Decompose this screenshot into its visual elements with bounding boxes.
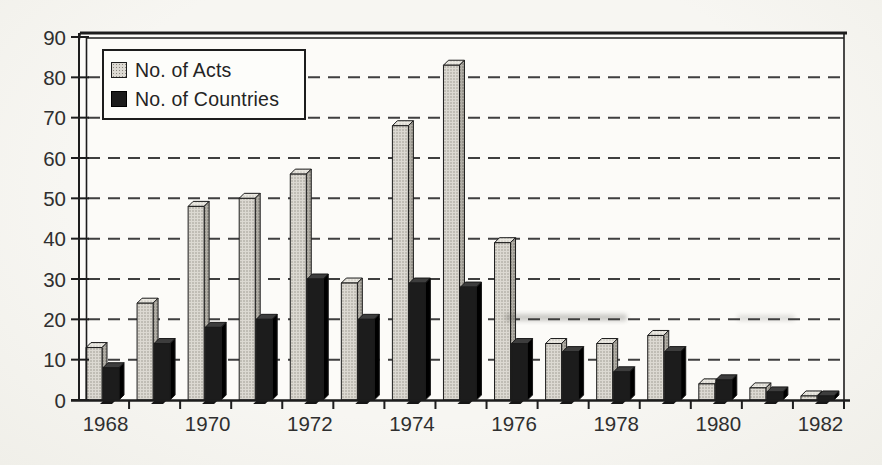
bar-acts-1979-front bbox=[648, 335, 664, 400]
bar-countries-1973-front bbox=[358, 319, 374, 400]
bar-countries-1968-front bbox=[103, 368, 119, 400]
countries-swatch-icon bbox=[111, 91, 127, 107]
bar-acts-1975-front bbox=[443, 65, 459, 400]
scan-smudge bbox=[505, 314, 627, 321]
bar-countries-1974-side bbox=[425, 278, 430, 400]
bar-countries-1972-front bbox=[307, 279, 323, 400]
bar-countries-1981-front bbox=[767, 392, 783, 400]
x-tick-label-1972: 1972 bbox=[287, 412, 333, 435]
bar-acts-1974-front bbox=[392, 126, 408, 400]
legend-label-countries: No. of Countries bbox=[135, 88, 279, 111]
y-tick-label-20: 20 bbox=[43, 308, 66, 331]
bar-acts-1977-front bbox=[546, 344, 562, 400]
bar-countries-1978-front bbox=[614, 372, 630, 400]
bar-countries-1976-front bbox=[512, 344, 528, 400]
x-tick-label-1976: 1976 bbox=[491, 412, 537, 435]
y-tick-label-60: 60 bbox=[43, 147, 66, 170]
bar-countries-1979-side bbox=[681, 347, 686, 400]
bar-countries-1972-side bbox=[323, 274, 328, 400]
x-tick-label-1982: 1982 bbox=[798, 412, 844, 435]
bar-countries-1979-front bbox=[665, 352, 681, 400]
y-tick-label-50: 50 bbox=[43, 187, 66, 210]
bar-countries-1969-side bbox=[170, 339, 175, 400]
bar-acts-1976-front bbox=[495, 243, 511, 400]
bar-acts-1981-front bbox=[750, 388, 766, 400]
y-tick-label-80: 80 bbox=[43, 66, 66, 89]
x-tick-label-1968: 1968 bbox=[83, 412, 129, 435]
bar-countries-1971-side bbox=[272, 314, 277, 400]
x-tick-label-1970: 1970 bbox=[185, 412, 231, 435]
bar-countries-1977-side bbox=[579, 347, 584, 400]
bar-countries-1971-front bbox=[256, 319, 272, 400]
bar-acts-1970-front bbox=[188, 206, 204, 400]
bar-countries-1968-side bbox=[119, 363, 124, 400]
y-tick-label-70: 70 bbox=[43, 106, 66, 129]
x-tick-label-1980: 1980 bbox=[696, 412, 742, 435]
bar-countries-1970-side bbox=[221, 322, 226, 400]
bar-countries-1970-front bbox=[205, 327, 221, 400]
bar-countries-1980-side bbox=[732, 375, 737, 400]
bar-acts-1980-front bbox=[699, 384, 715, 400]
bar-countries-1974-front bbox=[409, 283, 425, 400]
bar-countries-1977-front bbox=[563, 352, 579, 400]
bar-countries-1973-side bbox=[374, 314, 379, 400]
bar-acts-1972-front bbox=[290, 174, 306, 400]
bar-acts-1971-front bbox=[239, 198, 255, 400]
scanned-bar-chart-figure: 0102030405060708090196819701972197419761… bbox=[0, 0, 882, 465]
legend-label-acts: No. of Acts bbox=[135, 59, 232, 82]
y-tick-label-10: 10 bbox=[43, 348, 66, 371]
y-tick-label-90: 90 bbox=[43, 26, 66, 49]
x-tick-label-1978: 1978 bbox=[593, 412, 639, 435]
acts-swatch-icon bbox=[111, 62, 127, 78]
bar-countries-1975-side bbox=[476, 282, 481, 400]
scan-smudge bbox=[737, 315, 795, 321]
bar-countries-1980-front bbox=[716, 380, 732, 400]
bar-acts-1968-front bbox=[86, 348, 102, 400]
legend-item-acts: No. of Acts bbox=[111, 59, 304, 82]
legend-item-countries: No. of Countries bbox=[111, 88, 304, 111]
bar-acts-1969-front bbox=[137, 303, 153, 400]
bar-acts-1973-front bbox=[341, 283, 357, 400]
bar-countries-1978-side bbox=[630, 367, 635, 400]
y-tick-label-30: 30 bbox=[43, 268, 66, 291]
y-tick-label-0: 0 bbox=[55, 389, 66, 412]
y-tick-label-40: 40 bbox=[43, 227, 66, 250]
bar-countries-1975-front bbox=[460, 287, 476, 400]
x-tick-label-1974: 1974 bbox=[389, 412, 435, 435]
bar-countries-1969-front bbox=[154, 344, 170, 400]
legend-box: No. of Acts No. of Countries bbox=[102, 49, 306, 120]
bar-countries-1976-side bbox=[528, 339, 533, 400]
bar-acts-1978-front bbox=[597, 344, 613, 400]
